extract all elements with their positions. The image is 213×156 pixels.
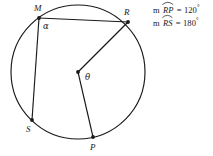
point-label-r: R (123, 7, 130, 17)
measure-prefix-rs: m (153, 18, 160, 28)
arc-measure-rp: m RP = 120° (153, 5, 200, 15)
point-dot-s (30, 118, 34, 122)
arc-measure-rs: m RS = 180° (153, 18, 199, 28)
measure-equals-rs: = (176, 18, 181, 28)
degree-symbol-rs: ° (196, 16, 199, 23)
measure-value-rs: 180 (183, 18, 196, 28)
measure-value-rp: 120 (184, 5, 197, 15)
radius-center-r (78, 22, 128, 72)
point-label-m: M (33, 3, 42, 13)
arc-term-rs: RS (162, 18, 173, 28)
arc-term-rp: RP (162, 5, 174, 15)
angle-label-alpha: α (43, 21, 49, 31)
geometry-diagram-screenshot: M R S P α θ m RP = 120° m (0, 0, 213, 156)
point-dot-r (126, 20, 130, 24)
point-dot-p (91, 135, 95, 139)
chord-m-s (32, 18, 39, 120)
point-dot-center (76, 70, 80, 74)
degree-symbol-rp: ° (197, 3, 200, 10)
point-dot-m (37, 16, 41, 20)
chord-m-r (39, 18, 128, 22)
angle-label-theta: θ (85, 72, 90, 82)
measure-prefix-rp: m (153, 5, 160, 15)
arc-endpoints-rs: RS (163, 18, 173, 28)
point-label-s: S (26, 124, 31, 134)
measure-equals-rp: = (177, 5, 182, 15)
point-label-p: P (89, 142, 96, 152)
arc-endpoints-rp: RP (163, 5, 174, 15)
